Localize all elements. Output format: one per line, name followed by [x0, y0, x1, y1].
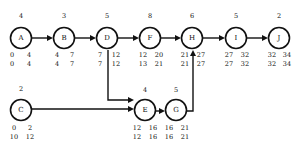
duration-label: 4 — [19, 12, 23, 20]
early-finish: 20 — [155, 51, 163, 59]
node-c: 2 C 0 2 10 12 — [10, 85, 34, 141]
late-start: 12 — [133, 133, 141, 141]
node-j: 2 J 32 34 32 34 — [268, 12, 291, 68]
late-start: 13 — [139, 60, 147, 68]
late-finish: 7 — [70, 60, 74, 68]
early-finish: 16 — [149, 124, 157, 132]
duration-label: 6 — [190, 12, 194, 20]
arrowhead-icon — [159, 108, 165, 114]
late-finish: 27 — [197, 60, 205, 68]
late-start: 16 — [165, 133, 173, 141]
late-start: 4 — [55, 60, 59, 68]
early-start: 27 — [225, 51, 233, 59]
late-finish: 21 — [181, 133, 189, 141]
arrowhead-icon — [47, 35, 53, 41]
node-id: F — [148, 34, 153, 42]
node-id: D — [104, 34, 110, 42]
late-start: 7 — [98, 60, 102, 68]
late-finish: 16 — [149, 133, 157, 141]
late-finish: 12 — [112, 60, 120, 68]
node-id: C — [18, 106, 23, 114]
node-id: A — [17, 34, 24, 42]
node-a: 4 A 0 4 0 4 — [10, 12, 32, 68]
arrowhead-icon — [133, 35, 139, 41]
arrowhead-icon — [219, 35, 225, 41]
late-finish: 34 — [283, 60, 291, 68]
late-finish: 4 — [27, 60, 31, 68]
node-id: E — [142, 106, 147, 114]
duration-label: 8 — [148, 12, 152, 20]
early-start: 7 — [98, 51, 102, 59]
early-finish: 7 — [70, 51, 74, 59]
duration-label: 5 — [105, 12, 109, 20]
node-id: G — [173, 106, 179, 114]
duration-label: 3 — [62, 12, 66, 20]
late-start: 10 — [10, 133, 18, 141]
late-start: 32 — [268, 60, 276, 68]
node-f: 8 F 12 20 13 21 — [139, 12, 163, 68]
node-id: J — [277, 34, 281, 42]
duration-label: 5 — [234, 12, 238, 20]
early-finish: 32 — [241, 51, 249, 59]
early-start: 16 — [165, 124, 173, 132]
node-id: H — [189, 34, 195, 42]
early-finish: 21 — [181, 124, 189, 132]
duration-label: 4 — [143, 86, 147, 94]
node-b: 3 B 4 7 4 7 — [54, 12, 75, 68]
late-finish: 21 — [155, 60, 163, 68]
arrowhead-icon — [90, 35, 96, 41]
early-finish: 4 — [27, 51, 31, 59]
node-id: B — [61, 34, 66, 42]
late-start: 21 — [181, 60, 189, 68]
early-finish: 12 — [112, 51, 120, 59]
network-diagram: 4 A 0 4 0 4 3 B 4 7 4 7 5 D 7 12 7 12 8 … — [0, 0, 295, 152]
early-finish: 27 — [197, 51, 205, 59]
late-start: 27 — [225, 60, 233, 68]
arrowhead-icon — [175, 35, 181, 41]
duration-label: 5 — [174, 86, 178, 94]
node-e: 4 E 12 16 12 16 — [133, 86, 157, 141]
arrowhead-icon — [128, 97, 134, 103]
early-start: 4 — [55, 51, 59, 59]
node-id: I — [235, 34, 238, 42]
early-start: 21 — [181, 51, 189, 59]
duration-label: 2 — [19, 85, 23, 93]
early-start: 32 — [268, 51, 276, 59]
late-finish: 12 — [26, 133, 34, 141]
early-finish: 34 — [283, 51, 291, 59]
node-i: 5 I 27 32 27 32 — [225, 12, 249, 68]
late-finish: 32 — [241, 60, 249, 68]
early-start: 0 — [10, 51, 14, 59]
arrowhead-icon — [262, 35, 268, 41]
node-g: 5 G 16 21 16 21 — [165, 86, 189, 141]
late-start: 0 — [10, 60, 14, 68]
arrowhead-icon — [128, 106, 134, 112]
early-start: 12 — [139, 51, 147, 59]
early-start: 0 — [12, 124, 16, 132]
early-finish: 2 — [28, 124, 32, 132]
early-start: 12 — [133, 124, 141, 132]
duration-label: 2 — [277, 12, 281, 20]
arrowhead-icon — [190, 50, 196, 56]
